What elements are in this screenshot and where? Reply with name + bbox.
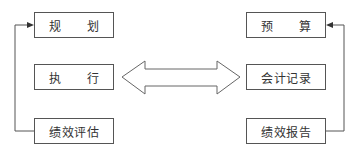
box-performance-report: 绩效报告 [246,118,326,144]
double-arrow-icon [122,61,240,94]
box-budget: 预 算 [246,12,326,38]
right-feedback-line [326,25,344,131]
box-label: 绩效评估 [49,123,99,140]
right-arrowhead-icon [326,22,333,28]
box-execution: 执 行 [34,64,114,90]
box-label: 预 算 [261,17,311,34]
box-label: 规 划 [49,17,99,34]
box-label: 绩效报告 [261,123,311,140]
box-label: 会计记录 [261,69,311,86]
left-feedback-line [15,25,34,131]
box-performance-evaluation: 绩效评估 [34,118,114,144]
box-accounting-records: 会计记录 [246,64,326,90]
box-planning: 规 划 [34,12,114,38]
left-arrowhead-icon [27,22,34,28]
box-label: 执 行 [49,69,99,86]
